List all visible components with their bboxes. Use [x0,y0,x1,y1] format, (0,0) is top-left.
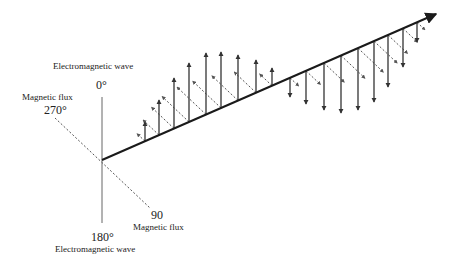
magnetic-arrow [212,76,238,101]
magnetic-arrow [403,28,418,42]
magnetic-arrow [306,71,321,85]
magnetic-arrow [162,97,189,122]
deg-90-label: 90 [151,208,163,222]
magnetic-arrow [341,56,365,79]
magnetic-arrow [193,81,221,108]
magnetic-arrow [177,87,206,115]
deg-180-label: 180° [91,230,114,244]
em-wave-diagram: Electromagnetic wave 0° Magnetic flux 27… [0,0,457,272]
magnetic-arrow [417,22,425,30]
em-wave-top-label: Electromagnetic wave [53,61,133,71]
magnetic-flux-left-label: Magnetic flux [22,92,73,102]
magnetic-arrow [374,41,397,63]
deg-0-label: 0° [96,78,107,92]
magnetic-arrow [358,48,383,72]
em-wave-bottom-label: Electromagnetic wave [55,244,135,254]
magnetic-arrow [151,107,174,128]
magnetic-flux-right-label: Magnetic flux [133,222,184,232]
deg-270-label: 270° [44,103,67,117]
magnetic-arrow [137,134,145,142]
magnetic-arrow [388,35,408,54]
magnetic-arrow [260,74,272,86]
magnetic-arrow [290,78,299,86]
propagation-axis [102,14,436,160]
